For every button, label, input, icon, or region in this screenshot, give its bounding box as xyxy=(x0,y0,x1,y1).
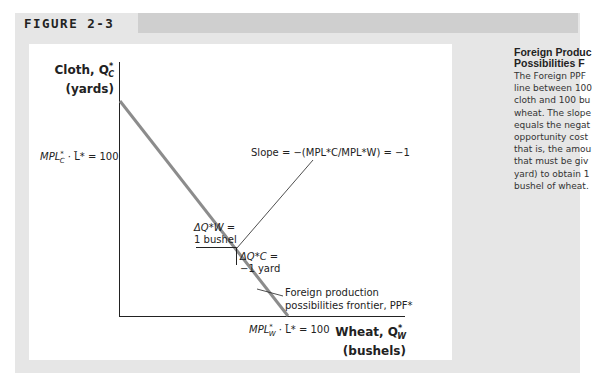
slope-label: Slope = −(MPL*C/MPL*W) = −1 xyxy=(251,147,410,158)
delta-qc-label: ΔQ*C = −1 yard xyxy=(240,251,280,275)
x-axis-label: Wheat, Q*W (bushels) xyxy=(330,322,406,358)
slope-step xyxy=(196,248,237,266)
x-intercept-label: MPL*W · L̄* = 100 xyxy=(249,323,330,338)
y-intercept-label: MPL*C · L̄* = 100 xyxy=(40,150,119,165)
ppf-label: Foreign production possibilities frontie… xyxy=(285,286,413,312)
y-axis-label: Cloth, Q*C (yards) xyxy=(50,60,114,96)
ppf-line xyxy=(120,101,288,316)
delta-qw-label: ΔQ*W = 1 bushel xyxy=(194,222,237,246)
slope-leader xyxy=(237,160,313,248)
